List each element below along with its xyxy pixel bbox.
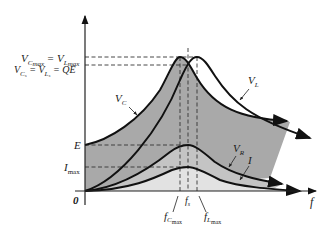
vl-pointer: [240, 89, 249, 100]
x-axis-label: f: [310, 195, 315, 209]
fcmax-pointer: [173, 196, 178, 212]
vc-pointer: [129, 107, 137, 115]
vc-curve-label: VC: [115, 92, 127, 107]
flmax-label: fLmax: [204, 210, 221, 225]
resonance-diagram: VCmax = VLmax VCs = VLs = QE E Imax 0 f …: [0, 0, 329, 230]
imax-label: Imax: [63, 161, 80, 176]
fcmax-label: fCmax: [164, 210, 182, 225]
e-label: E: [73, 139, 81, 151]
origin-label: 0: [73, 194, 79, 206]
vcs-label: VCs = VLs = QE: [14, 64, 76, 78]
fs-label: fs: [185, 195, 191, 207]
vl-curve-label: VL: [248, 74, 259, 89]
